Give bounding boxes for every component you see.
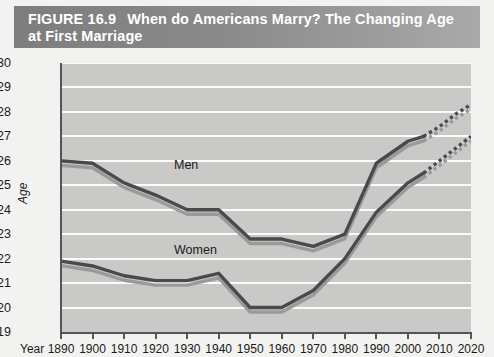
figure-title-banner: FIGURE 16.9When do Americans Marry? The … (14, 6, 480, 48)
y-axis-tick-label: 26 (0, 154, 11, 168)
x-axis-tick-label: 2020 (458, 342, 485, 356)
x-axis-tick-mark (407, 333, 409, 339)
figure-title-text-1: When do Americans Marry? The Changing Ag… (127, 11, 454, 27)
series-projection-shadow-men (424, 109, 471, 141)
x-axis-tick-mark (438, 333, 440, 339)
y-axis-tick-label: 19 (0, 325, 11, 339)
x-axis-tick-mark (312, 333, 314, 339)
x-axis-tick-label: 1930 (174, 342, 201, 356)
x-axis-tick-mark (218, 333, 220, 339)
y-axis-tick-label: 23 (0, 227, 11, 241)
series-line-shadow-women (61, 178, 424, 312)
x-axis-tick-mark (186, 333, 188, 339)
series-lines-svg (61, 63, 471, 332)
series-label-women: Women (174, 243, 217, 257)
x-axis-tick-mark (123, 333, 125, 339)
y-axis-tick-label: 25 (0, 178, 11, 192)
y-axis-tick-label: 24 (0, 203, 11, 217)
x-axis-tick-label: 2000 (395, 342, 422, 356)
figure-number: FIGURE 16.9 (28, 11, 116, 27)
x-axis-tick-mark (375, 333, 377, 339)
x-axis-tick-label: 1990 (363, 342, 390, 356)
x-axis-line (60, 332, 472, 334)
y-axis-title: Age (16, 183, 30, 204)
figure-container: FIGURE 16.9When do Americans Marry? The … (0, 0, 494, 357)
y-axis-tick-label: 21 (0, 276, 11, 290)
x-axis-tick-label: 1960 (268, 342, 295, 356)
x-axis-tick-mark (344, 333, 346, 339)
x-axis-tick-label: 1900 (79, 342, 106, 356)
x-axis-tick-mark (281, 333, 283, 339)
x-axis-tick-label: 2010 (426, 342, 453, 356)
y-axis-line (60, 63, 62, 333)
x-axis-tick-label: 1890 (48, 342, 75, 356)
x-axis-tick-mark (60, 333, 62, 339)
x-axis-tick-label: 1970 (300, 342, 327, 356)
x-axis-tick-mark (92, 333, 94, 339)
series-line-shadow-men (61, 141, 424, 251)
y-axis-tick-label: 30 (0, 56, 11, 70)
series-projection-shadow-women (424, 141, 471, 178)
series-projection-men (424, 105, 471, 137)
x-axis-tick-label: 1910 (111, 342, 138, 356)
x-axis-tick-label: 1980 (331, 342, 358, 356)
figure-title-line-1: FIGURE 16.9When do Americans Marry? The … (28, 11, 480, 28)
y-axis-tick-label: 29 (0, 80, 11, 94)
x-axis-tick-mark (249, 333, 251, 339)
series-label-men: Men (174, 158, 198, 172)
x-axis-tick-label: 1950 (237, 342, 264, 356)
plot-area: Men Women (61, 63, 471, 332)
y-axis-tick-label: 27 (0, 129, 11, 143)
figure-title-line-2: at First Marriage (28, 28, 480, 45)
x-axis-tick-label: 1920 (142, 342, 169, 356)
x-axis-title: Year (20, 342, 44, 356)
y-axis-tick-label: 28 (0, 105, 11, 119)
y-axis-tick-label: 20 (0, 301, 11, 315)
series-projection-women (424, 136, 471, 173)
x-axis-tick-label: 1940 (205, 342, 232, 356)
x-axis-tick-mark (470, 333, 472, 339)
chart-frame: Men Women 302928272625242322212019 18901… (14, 54, 480, 346)
series-line-women (61, 173, 424, 307)
y-axis-tick-label: 22 (0, 252, 11, 266)
x-axis-tick-mark (155, 333, 157, 339)
